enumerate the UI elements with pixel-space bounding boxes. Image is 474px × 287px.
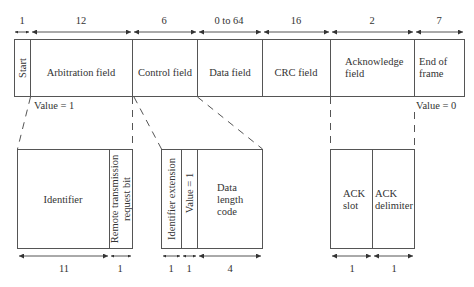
field-ack-line1: Acknowledge [345, 56, 404, 67]
bits-ide: 1 [168, 263, 173, 274]
field-ack-delimiter-line1: ACK [375, 188, 398, 199]
bits-ack: 2 [369, 15, 374, 26]
bits-ack-slot: 1 [349, 263, 354, 274]
bits-reserved: 1 [186, 263, 191, 274]
top-bit-labels: 1 12 6 0 to 64 16 2 7 [19, 15, 441, 26]
bits-dlc: 4 [227, 263, 233, 274]
bits-data: 0 to 64 [214, 15, 244, 26]
field-dlc-line1: Data [217, 182, 237, 193]
field-ack-slot-line2: slot [343, 200, 358, 211]
expand-line-control-left [134, 97, 162, 149]
expand-line-arbitration-left [18, 97, 31, 149]
field-control: Control field [138, 67, 193, 78]
can-frame-diagram: 1 12 6 0 to 64 16 2 7 Start Arbitration … [0, 0, 474, 287]
detail-control: Identifier extension Value = 1 Data leng… [162, 150, 263, 275]
field-eof-line2: frame [419, 68, 444, 79]
field-rtr-line1: Remote transmission [109, 154, 120, 243]
field-data: Data field [209, 67, 251, 78]
field-ack-delimiter-line2: delimiter [375, 200, 413, 211]
expansion-lines [18, 97, 415, 149]
can-frame: Start Arbitration field Control field Da… [15, 40, 465, 97]
field-eof-line1: End of [419, 56, 448, 67]
field-start: Start [17, 58, 28, 78]
bits-eof: 7 [436, 15, 441, 26]
field-ack-slot-line1: ACK [343, 188, 366, 199]
bits-start: 1 [19, 15, 24, 26]
bits-control: 6 [161, 15, 166, 26]
field-ack-line2: field [345, 68, 365, 79]
bits-arbitration: 12 [76, 15, 87, 26]
eof-value-annotation: Value = 0 [416, 100, 456, 111]
field-identifier-extension: Identifier extension [166, 157, 177, 240]
detail-ack: ACK slot ACK delimiter 1 1 [331, 150, 415, 275]
field-rtr-line2: request bit [121, 177, 132, 221]
field-identifier: Identifier [43, 194, 83, 205]
field-dlc-line2: length [217, 194, 244, 205]
bits-rtr: 1 [117, 263, 122, 274]
bits-crc: 16 [291, 15, 302, 26]
bits-ack-delimiter: 1 [391, 263, 396, 274]
field-reserved-value: Value = 1 [184, 173, 195, 213]
start-value-annotation: Value = 1 [34, 100, 74, 111]
bits-identifier: 11 [59, 263, 69, 274]
field-crc: CRC field [275, 67, 319, 78]
field-dlc-line3: code [217, 206, 237, 217]
field-arbitration: Arbitration field [47, 67, 116, 78]
expand-line-control-right [198, 97, 263, 149]
detail-arbitration: Identifier Remote transmission request b… [18, 150, 133, 275]
